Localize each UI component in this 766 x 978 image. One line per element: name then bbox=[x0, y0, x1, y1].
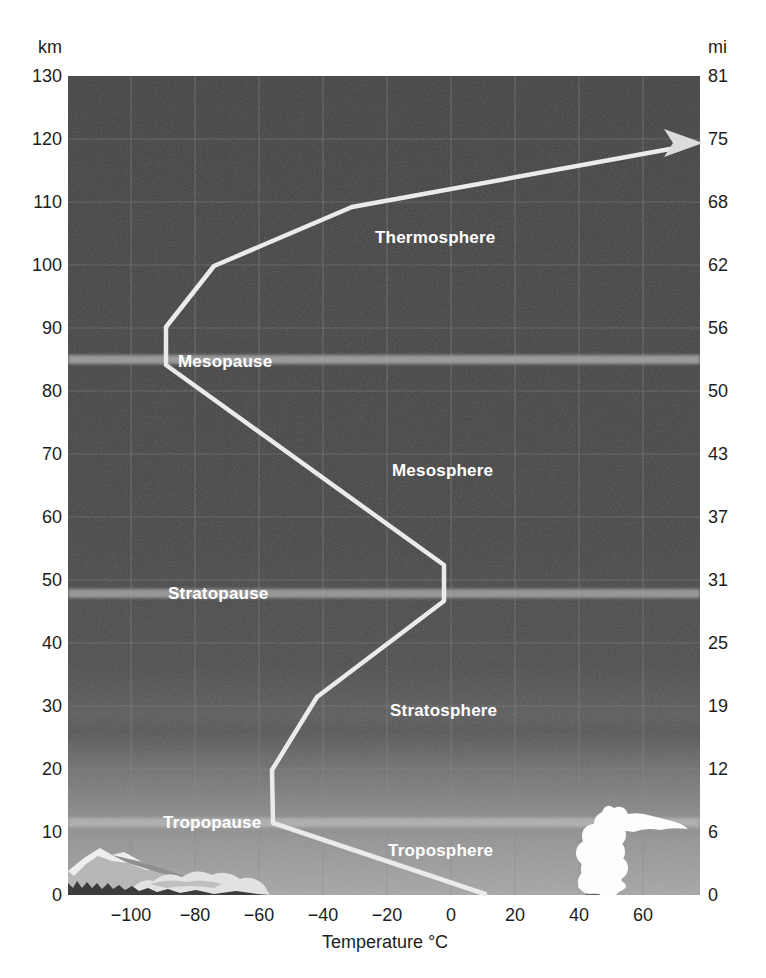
svg-text:0: 0 bbox=[708, 885, 718, 905]
svg-text:100: 100 bbox=[32, 255, 62, 275]
left-axis-unit: km bbox=[38, 37, 62, 57]
troposphere-label: Troposphere bbox=[388, 841, 493, 860]
svg-text:80: 80 bbox=[42, 381, 62, 401]
svg-text:50: 50 bbox=[42, 570, 62, 590]
svg-text:−20: −20 bbox=[372, 905, 403, 925]
left-axis-ticks: 130 120 110 100 90 80 70 60 50 40 30 20 … bbox=[32, 66, 62, 905]
svg-text:−40: −40 bbox=[308, 905, 339, 925]
svg-text:40: 40 bbox=[569, 905, 589, 925]
svg-text:6: 6 bbox=[708, 822, 718, 842]
film-grain-texture bbox=[68, 76, 700, 895]
svg-text:120: 120 bbox=[32, 129, 62, 149]
svg-text:90: 90 bbox=[42, 318, 62, 338]
svg-text:60: 60 bbox=[42, 507, 62, 527]
right-axis-ticks: 81 75 68 62 56 50 43 37 31 25 19 12 6 0 bbox=[708, 66, 728, 905]
svg-text:110: 110 bbox=[33, 192, 62, 212]
svg-text:75: 75 bbox=[708, 129, 728, 149]
svg-text:−80: −80 bbox=[180, 905, 211, 925]
svg-text:60: 60 bbox=[633, 905, 653, 925]
svg-text:62: 62 bbox=[708, 255, 728, 275]
svg-text:−100: −100 bbox=[111, 905, 152, 925]
mesosphere-label: Mesosphere bbox=[392, 461, 493, 480]
thermosphere-label: Thermosphere bbox=[375, 228, 496, 247]
atmosphere-chart: Thermosphere Mesopause Mesosphere Strato… bbox=[0, 0, 766, 978]
svg-text:0: 0 bbox=[446, 905, 456, 925]
svg-text:56: 56 bbox=[708, 318, 728, 338]
svg-text:25: 25 bbox=[708, 633, 728, 653]
stratosphere-label: Stratosphere bbox=[390, 701, 497, 720]
stratopause-label: Stratopause bbox=[168, 584, 268, 603]
svg-text:130: 130 bbox=[32, 66, 62, 86]
svg-text:10: 10 bbox=[42, 822, 62, 842]
svg-text:19: 19 bbox=[708, 696, 728, 716]
x-axis-ticks: −100 −80 −60 −40 −20 0 20 40 60 bbox=[111, 905, 653, 925]
plot-area: Thermosphere Mesopause Mesosphere Strato… bbox=[68, 76, 703, 897]
svg-text:12: 12 bbox=[708, 759, 728, 779]
svg-text:43: 43 bbox=[708, 444, 728, 464]
svg-text:20: 20 bbox=[505, 905, 525, 925]
svg-text:81: 81 bbox=[708, 66, 728, 86]
svg-text:50: 50 bbox=[708, 381, 728, 401]
stratopause-band bbox=[68, 589, 700, 598]
tropopause-label: Tropopause bbox=[163, 813, 261, 832]
svg-text:70: 70 bbox=[42, 444, 62, 464]
mesopause-label: Mesopause bbox=[178, 352, 272, 371]
svg-text:31: 31 bbox=[708, 570, 728, 590]
svg-text:30: 30 bbox=[42, 696, 62, 716]
svg-text:−60: −60 bbox=[244, 905, 275, 925]
atmosphere-temperature-figure: Thermosphere Mesopause Mesosphere Strato… bbox=[0, 0, 766, 978]
x-axis-title: Temperature °C bbox=[322, 932, 448, 952]
svg-text:68: 68 bbox=[708, 192, 728, 212]
svg-text:0: 0 bbox=[52, 885, 62, 905]
svg-text:37: 37 bbox=[708, 507, 728, 527]
svg-text:20: 20 bbox=[42, 759, 62, 779]
right-axis-unit: mi bbox=[708, 37, 727, 57]
mesopause-band bbox=[68, 355, 700, 364]
svg-text:40: 40 bbox=[42, 633, 62, 653]
